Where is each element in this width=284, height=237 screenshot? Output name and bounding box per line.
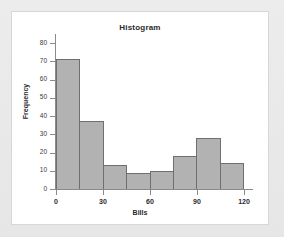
y-tick-label: 80 — [25, 40, 47, 47]
y-tick-mark — [50, 80, 55, 81]
y-tick-mark — [50, 134, 55, 135]
x-tick-mark — [244, 190, 245, 195]
histogram-bar — [150, 171, 174, 189]
x-tick-label: 90 — [184, 198, 210, 205]
y-axis-title: Frequency — [22, 72, 29, 132]
histogram-bar — [56, 59, 80, 189]
x-axis-line — [52, 189, 253, 190]
y-tick-label: 10 — [25, 167, 47, 174]
y-tick-label: 0 — [25, 186, 47, 193]
x-tick-mark — [103, 190, 104, 195]
y-tick-mark — [50, 171, 55, 172]
x-tick-label: 60 — [137, 198, 163, 205]
y-tick-mark — [50, 98, 55, 99]
y-tick-label: 30 — [25, 131, 47, 138]
histogram-bar — [103, 165, 127, 189]
x-tick-mark — [56, 190, 57, 195]
x-tick-label: 30 — [90, 198, 116, 205]
x-axis-title: Bills — [12, 209, 268, 216]
y-tick-mark — [50, 116, 55, 117]
y-tick-label: 70 — [25, 58, 47, 65]
histogram-bar — [173, 156, 197, 189]
plot-area — [56, 43, 244, 189]
chart-panel: Histogram 01020304050607080 0306090120 B… — [11, 11, 269, 225]
y-tick-label: 20 — [25, 149, 47, 156]
y-tick-mark — [50, 43, 55, 44]
x-tick-mark — [197, 190, 198, 195]
x-tick-mark — [150, 190, 151, 195]
x-tick-label: 120 — [231, 198, 257, 205]
histogram-bar — [79, 121, 103, 189]
chart-title: Histogram — [12, 23, 268, 32]
histogram-bar — [220, 163, 244, 189]
y-tick-mark — [50, 189, 55, 190]
histogram-bar — [126, 173, 150, 189]
histogram-bar — [196, 138, 220, 189]
screenshot-root: Histogram 01020304050607080 0306090120 B… — [0, 0, 284, 237]
y-tick-mark — [50, 153, 55, 154]
x-tick-label: 0 — [43, 198, 69, 205]
histogram-bars — [56, 43, 244, 189]
y-tick-mark — [50, 61, 55, 62]
